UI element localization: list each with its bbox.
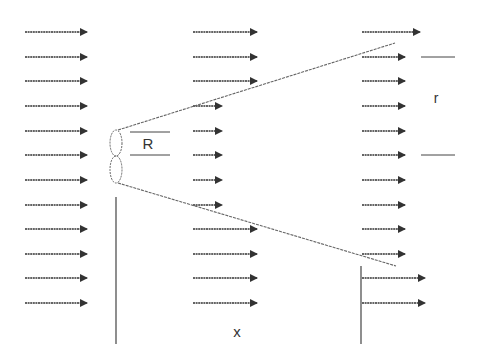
turbine-structure: [110, 43, 455, 344]
wake-diagram: R r x: [0, 0, 479, 359]
wake-radius-label: r: [434, 90, 439, 106]
rotor-blade-lower: [110, 156, 122, 183]
downstream-distance-label: x: [233, 323, 241, 340]
wake-boundary-upper: [118, 43, 395, 130]
velocity-arrows: [25, 32, 425, 303]
rotor-blade-upper: [110, 130, 122, 156]
rotor-radius-label: R: [143, 135, 154, 152]
